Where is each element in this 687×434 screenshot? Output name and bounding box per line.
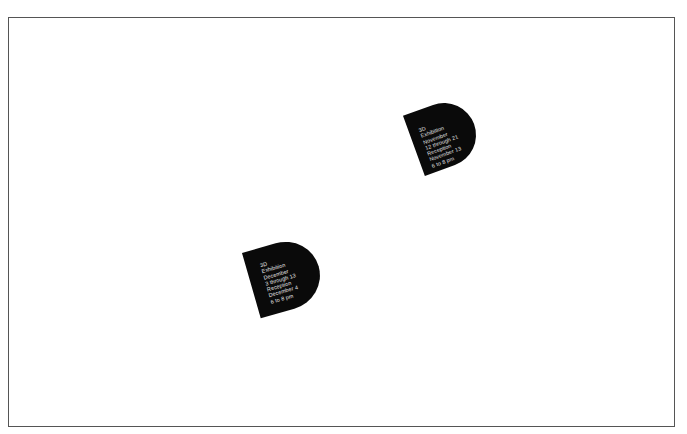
card-text: 3D Exhibition December 3 through 13 Rece…: [259, 254, 301, 305]
card-text: 3D Exhibition November 12 through 21 Rec…: [418, 116, 466, 169]
document-frame: [8, 17, 675, 427]
